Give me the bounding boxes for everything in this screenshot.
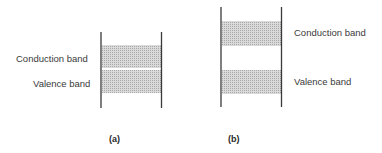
valence-band-label-b: Valence band bbox=[294, 77, 351, 87]
valence-band-label-a: Valence band bbox=[33, 79, 90, 89]
caption-a: (a) bbox=[109, 135, 120, 144]
caption-b: (b) bbox=[228, 135, 240, 144]
conduction-band-a bbox=[102, 45, 161, 68]
valence-band-a bbox=[102, 70, 161, 93]
conduction-band-b bbox=[222, 21, 281, 46]
conduction-band-label-b: Conduction band bbox=[294, 28, 366, 38]
panel-a bbox=[101, 32, 162, 108]
conduction-band-label-a: Conduction band bbox=[16, 54, 88, 64]
panel-b bbox=[221, 7, 282, 107]
valence-band-b bbox=[222, 70, 281, 94]
